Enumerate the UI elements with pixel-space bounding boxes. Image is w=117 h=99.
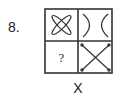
question-mark: ? <box>59 50 65 65</box>
figure-caption: X <box>71 80 85 96</box>
matrix-svg: ? <box>44 8 113 74</box>
question-number: 8. <box>8 19 20 35</box>
curved-x-icon <box>83 14 108 37</box>
straight-x-icon <box>81 44 110 71</box>
petal-x-icon <box>50 13 73 36</box>
figure-matrix: ? <box>44 8 113 74</box>
